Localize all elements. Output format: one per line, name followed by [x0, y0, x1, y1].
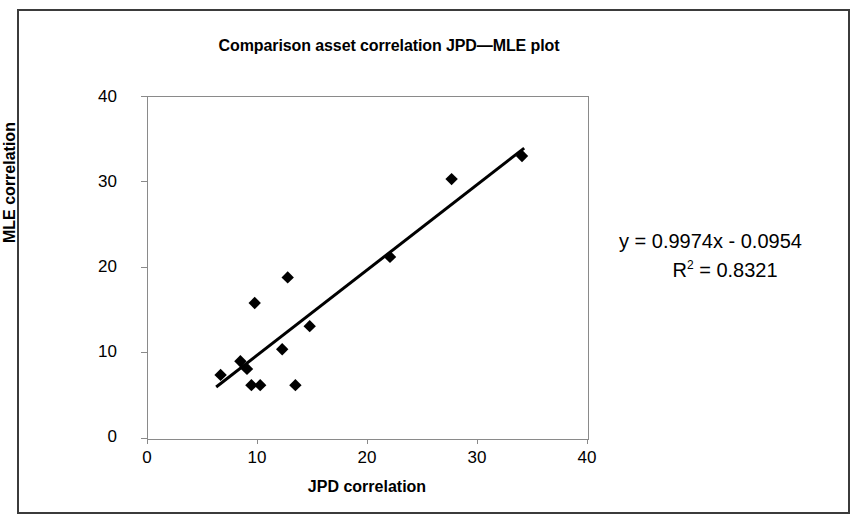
regression-equation: y = 0.9974x - 0.0954 — [619, 227, 849, 256]
regression-annotation: y = 0.9974x - 0.0954 R2 = 0.8321 — [619, 227, 849, 285]
y-axis-title: MLE correlation — [1, 122, 19, 243]
scatter-plot-svg — [148, 97, 588, 439]
chart-title: Comparison asset correlation JPD—MLE plo… — [139, 37, 639, 55]
trendline-group — [216, 148, 524, 387]
x-axis-title: JPD correlation — [247, 478, 487, 496]
x-tick-label-10: 10 — [237, 448, 277, 468]
data-point — [289, 379, 301, 391]
data-point — [254, 379, 266, 391]
y-tick-label-40: 40 — [77, 87, 117, 107]
data-point — [276, 343, 288, 355]
x-tick-label-40: 40 — [567, 448, 607, 468]
plot-area — [147, 96, 589, 440]
r-squared-line: R2 = 0.8321 — [619, 256, 849, 285]
x-tick-label-0: 0 — [127, 448, 167, 468]
data-point — [304, 320, 316, 332]
data-points-group — [214, 150, 528, 392]
y-tick-label-0: 0 — [77, 427, 117, 447]
data-point — [445, 173, 457, 185]
data-point — [384, 251, 396, 263]
y-tick-label-20: 20 — [77, 257, 117, 277]
r-squared-symbol: R — [672, 259, 686, 281]
x-tick-label-30: 30 — [457, 448, 497, 468]
screenshot-root: Comparison asset correlation JPD—MLE plo… — [0, 0, 867, 530]
data-point — [249, 297, 261, 309]
x-tick-label-20: 20 — [347, 448, 387, 468]
y-tick-label-30: 30 — [77, 172, 117, 192]
figure-frame: Comparison asset correlation JPD—MLE plo… — [17, 9, 850, 514]
y-tick-label-10: 10 — [77, 342, 117, 362]
trendline — [216, 148, 524, 387]
r-squared-exponent: 2 — [687, 258, 694, 272]
r-squared-value: = 0.8321 — [699, 259, 777, 281]
data-point — [282, 271, 294, 283]
